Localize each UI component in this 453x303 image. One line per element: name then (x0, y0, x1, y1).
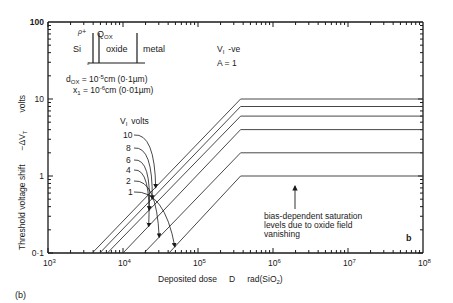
x-tick-1e4: 104 (118, 258, 131, 268)
y-tick-0.1: 0·1 (32, 248, 45, 258)
x-tick-1e5: 105 (193, 258, 206, 268)
y-tick-10: 10 (35, 94, 45, 104)
a-param-label: A = 1 (217, 58, 237, 68)
y-tick-100: 100 (30, 17, 44, 27)
x-tick-labels: 103 104 105 106 107 108 (43, 258, 431, 268)
dox-param: dOX = 10-5cm (0·1µm) (66, 74, 148, 85)
inset-rho-label: ρ+ (77, 28, 86, 36)
legend-label-1: 1 (128, 187, 133, 197)
x1-param: x1 = 10-6cm (0·01µm) (73, 85, 154, 96)
legend-label-6: 6 (126, 155, 131, 165)
inset-metal-label: metal (143, 44, 165, 54)
legend-label-2: 2 (126, 176, 131, 186)
x-tick-1e8: 108 (418, 258, 431, 268)
inset-si-label: Si (73, 44, 81, 54)
y-tick-1: 1 (39, 171, 44, 181)
x-axis-label: Deposited doseDrad(SiO2) (158, 274, 283, 285)
x-tick-1e7: 107 (343, 258, 356, 268)
inset-zero-label: 0 (87, 61, 90, 66)
chart-labels: ρ+ QOX Si oxide metal 0 dOX = 10-5cm (0·… (0, 0, 453, 303)
legend-title: VIvolts (120, 116, 149, 127)
inset-oxide-label: oxide (106, 44, 128, 54)
legend-label-8: 8 (126, 143, 131, 153)
legend-label-4: 4 (126, 165, 131, 175)
legend-label-10: 10 (123, 130, 133, 140)
panel-letter: b (406, 233, 412, 243)
vi-sign-label: VI-ve (217, 44, 240, 55)
inset-qox-label: QOX (97, 29, 113, 40)
x-tick-1e6: 106 (268, 258, 281, 268)
saturation-note-line3: vanishing (264, 229, 300, 239)
x-tick-1e3: 103 (43, 258, 56, 268)
figure-label: (b) (15, 290, 26, 300)
y-axis-label: Threshold voltage shift−ΔVTvolts (17, 95, 28, 250)
